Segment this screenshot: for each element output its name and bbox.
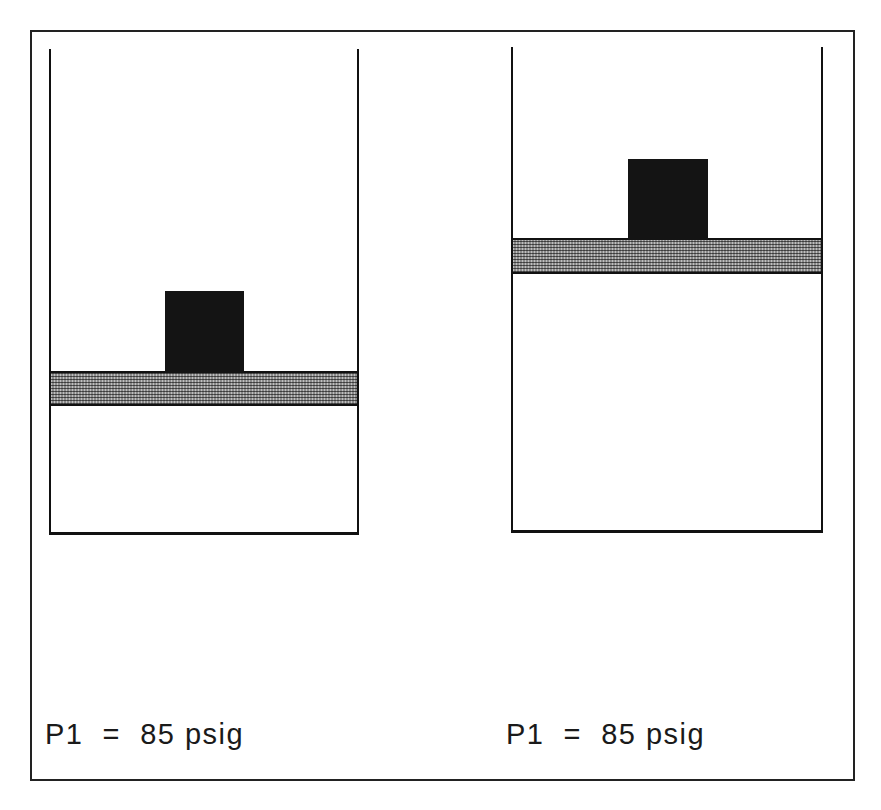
weight-block <box>165 291 244 373</box>
state-2-labels: P1 = 85 psig V1 = 10 cf T1 = 580 Deg. F <box>506 644 768 810</box>
pressure-label: P1 = 85 psig <box>45 716 289 752</box>
pressure-label: P1 = 85 psig <box>506 716 768 752</box>
piston <box>513 238 821 274</box>
cylinder-walls <box>511 47 823 533</box>
weight-block <box>628 159 708 240</box>
piston <box>51 371 357 406</box>
state-1-labels: P1 = 85 psig V1 = 5 cf T1 = 60 Deg. F <box>45 644 289 810</box>
